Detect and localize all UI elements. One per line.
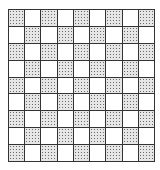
stippled-cell <box>41 78 56 94</box>
blank-cell <box>25 44 40 60</box>
blank-cell <box>74 94 89 110</box>
blank-cell <box>90 44 105 60</box>
blank-cell <box>25 78 40 94</box>
stippled-cell <box>123 61 138 77</box>
stippled-cell <box>41 10 56 26</box>
stippled-cell <box>9 145 24 161</box>
stippled-cell <box>25 27 40 43</box>
stippled-cell <box>74 44 89 60</box>
stippled-cell <box>90 94 105 110</box>
blank-cell <box>123 145 138 161</box>
blank-cell <box>123 10 138 26</box>
stippled-cell <box>106 44 121 60</box>
blank-cell <box>41 61 56 77</box>
blank-cell <box>41 128 56 144</box>
blank-cell <box>58 10 73 26</box>
stippled-cell <box>90 128 105 144</box>
stippled-cell <box>123 94 138 110</box>
stippled-cell <box>25 94 40 110</box>
blank-cell <box>9 61 24 77</box>
blank-cell <box>139 128 154 144</box>
stippled-cell <box>106 111 121 127</box>
blank-cell <box>41 27 56 43</box>
stippled-cell <box>58 61 73 77</box>
stippled-cell <box>106 78 121 94</box>
blank-cell <box>90 145 105 161</box>
blank-cell <box>58 78 73 94</box>
stippled-cell <box>9 111 24 127</box>
blank-cell <box>25 10 40 26</box>
blank-cell <box>139 27 154 43</box>
stippled-cell <box>106 10 121 26</box>
blank-cell <box>58 44 73 60</box>
stippled-cell <box>74 145 89 161</box>
stippled-cell <box>58 27 73 43</box>
blank-cell <box>9 27 24 43</box>
blank-cell <box>139 61 154 77</box>
stippled-cell <box>74 10 89 26</box>
blank-cell <box>90 10 105 26</box>
stippled-cell <box>139 78 154 94</box>
stippled-cell <box>41 145 56 161</box>
blank-cell <box>123 111 138 127</box>
blank-cell <box>106 61 121 77</box>
blank-cell <box>9 128 24 144</box>
blank-cell <box>58 111 73 127</box>
checkerboard-grid <box>8 9 155 162</box>
blank-cell <box>123 44 138 60</box>
blank-cell <box>139 94 154 110</box>
blank-cell <box>74 27 89 43</box>
stippled-cell <box>106 145 121 161</box>
stippled-cell <box>90 61 105 77</box>
blank-cell <box>74 128 89 144</box>
stippled-cell <box>41 44 56 60</box>
blank-cell <box>106 94 121 110</box>
blank-cell <box>74 61 89 77</box>
stippled-cell <box>25 61 40 77</box>
stippled-cell <box>9 78 24 94</box>
stippled-cell <box>123 27 138 43</box>
stippled-cell <box>41 111 56 127</box>
blank-cell <box>106 27 121 43</box>
blank-cell <box>25 145 40 161</box>
blank-cell <box>9 94 24 110</box>
stippled-cell <box>74 111 89 127</box>
stippled-cell <box>9 10 24 26</box>
stippled-cell <box>90 27 105 43</box>
stippled-cell <box>58 128 73 144</box>
blank-cell <box>41 94 56 110</box>
blank-cell <box>123 78 138 94</box>
blank-cell <box>90 78 105 94</box>
stippled-cell <box>74 78 89 94</box>
blank-cell <box>106 128 121 144</box>
stippled-cell <box>123 128 138 144</box>
blank-cell <box>25 111 40 127</box>
stippled-cell <box>139 44 154 60</box>
stippled-cell <box>139 145 154 161</box>
stippled-cell <box>25 128 40 144</box>
stippled-cell <box>9 44 24 60</box>
stippled-cell <box>139 10 154 26</box>
blank-cell <box>90 111 105 127</box>
stippled-cell <box>139 111 154 127</box>
blank-cell <box>58 145 73 161</box>
stippled-cell <box>58 94 73 110</box>
